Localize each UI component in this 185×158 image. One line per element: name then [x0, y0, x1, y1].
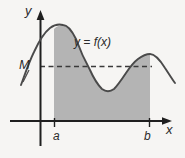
plot-canvas [0, 0, 185, 158]
math-figure: y x M y = f(x) a b [0, 0, 185, 158]
curve-equation-label: y = f(x) [74, 36, 111, 48]
arrow-up-icon [37, 10, 45, 20]
lower-limit-label-a: a [53, 130, 60, 142]
threshold-label-m: M [19, 58, 30, 71]
x-axis-label: x [166, 123, 173, 136]
upper-limit-label-b: b [144, 130, 151, 142]
y-axis-label: y [25, 4, 32, 17]
